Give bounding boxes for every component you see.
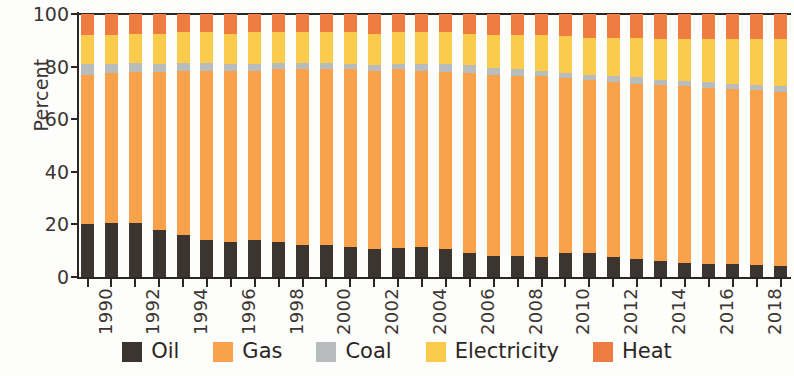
- bar-segment-coal-1993: [153, 64, 166, 72]
- bar-segment-electricity-2008: [511, 35, 524, 69]
- legend-item-coal[interactable]: Coal: [316, 341, 391, 362]
- legend-item-heat[interactable]: Heat: [593, 341, 672, 362]
- bar-segment-coal-1990: [81, 64, 94, 75]
- bar-2010: [559, 14, 572, 277]
- bar-segment-electricity-1992: [129, 34, 142, 63]
- bar-2008: [511, 14, 524, 277]
- bar-segment-oil-2004: [415, 247, 428, 277]
- bar-segment-coal-1994: [177, 63, 190, 71]
- x-tick-mark-1993: [158, 279, 160, 287]
- legend-item-oil[interactable]: Oil: [122, 341, 179, 362]
- bar-segment-heat-2019: [774, 14, 787, 39]
- x-tick-mark-2009: [541, 279, 543, 287]
- bar-segment-oil-2017: [726, 264, 739, 277]
- legend-item-electricity[interactable]: Electricity: [426, 341, 559, 362]
- x-tick-mark-2011: [588, 279, 590, 287]
- bar-2002: [368, 14, 381, 277]
- bar-2006: [463, 14, 476, 277]
- bar-segment-heat-2005: [439, 14, 452, 32]
- bar-2009: [535, 14, 548, 277]
- legend-label-oil: Oil: [151, 341, 179, 362]
- bar-segment-oil-2014: [654, 261, 667, 277]
- x-tick-label-2018: 2018: [764, 288, 785, 335]
- x-tick-mark-1990: [87, 279, 89, 287]
- bar-segment-electricity-2015: [678, 39, 691, 81]
- bar-segment-gas-1995: [200, 71, 213, 241]
- bar-segment-oil-2019: [774, 266, 787, 277]
- x-tick-label-2010: 2010: [572, 288, 593, 335]
- bar-segment-heat-1992: [129, 14, 142, 34]
- y-tick-mark-80: [71, 66, 78, 68]
- bar-segment-oil-2000: [320, 245, 333, 277]
- bar-1995: [200, 14, 213, 277]
- x-tick-mark-2010: [564, 279, 566, 287]
- bar-1992: [129, 14, 142, 277]
- legend-swatch-electricity-icon: [426, 342, 446, 362]
- bar-segment-heat-1993: [153, 14, 166, 34]
- x-tick-mark-2017: [732, 279, 734, 287]
- x-tick-mark-2006: [469, 279, 471, 287]
- bar-segment-oil-2008: [511, 256, 524, 277]
- bar-segment-electricity-2005: [439, 32, 452, 64]
- bar-2012: [607, 14, 620, 277]
- bar-segment-electricity-2006: [463, 34, 476, 66]
- bar-segment-heat-2002: [368, 14, 381, 34]
- bar-segment-gas-2004: [415, 71, 428, 247]
- bar-segment-electricity-1997: [248, 32, 261, 64]
- bar-segment-oil-1997: [248, 240, 261, 277]
- bar-segment-heat-2004: [415, 14, 428, 32]
- legend-label-gas: Gas: [242, 341, 282, 362]
- bar-segment-coal-1991: [105, 64, 118, 73]
- bar-segment-oil-1992: [129, 223, 142, 277]
- x-tick-mark-1997: [254, 279, 256, 287]
- bar-segment-electricity-2011: [583, 38, 596, 75]
- bar-1997: [248, 14, 261, 277]
- bar-segment-electricity-2017: [726, 39, 739, 84]
- bar-segment-gas-1991: [105, 73, 118, 223]
- bar-segment-heat-1998: [272, 14, 285, 32]
- bar-segment-coal-1992: [129, 63, 142, 72]
- legend-swatch-oil-icon: [122, 342, 142, 362]
- bar-1990: [81, 14, 94, 277]
- x-tick-mark-1992: [134, 279, 136, 287]
- bar-segment-electricity-2009: [535, 35, 548, 71]
- legend-swatch-coal-icon: [316, 342, 336, 362]
- bar-segment-oil-1994: [177, 235, 190, 277]
- bar-segment-oil-2010: [559, 253, 572, 277]
- bar-segment-oil-2018: [750, 265, 763, 277]
- x-tick-label-2006: 2006: [477, 288, 498, 335]
- bar-segment-oil-2005: [439, 249, 452, 277]
- bar-segment-coal-2006: [463, 65, 476, 73]
- x-tick-label-2016: 2016: [716, 288, 737, 335]
- bar-segment-heat-2013: [630, 14, 643, 38]
- bar-segment-gas-2015: [678, 86, 691, 262]
- bar-segment-electricity-2001: [344, 32, 357, 64]
- bar-segment-gas-2013: [630, 84, 643, 259]
- bar-segment-oil-1998: [272, 242, 285, 278]
- bar-segment-heat-2008: [511, 14, 524, 35]
- x-tick-mark-2003: [397, 279, 399, 287]
- x-tick-label-2000: 2000: [333, 288, 354, 335]
- x-tick-mark-2016: [708, 279, 710, 287]
- x-tick-mark-1999: [302, 279, 304, 287]
- bar-segment-electricity-1993: [153, 34, 166, 64]
- bar-segment-gas-1997: [248, 71, 261, 241]
- bar-segment-electricity-2007: [487, 35, 500, 68]
- bar-segment-oil-1995: [200, 240, 213, 277]
- legend-item-gas[interactable]: Gas: [213, 341, 282, 362]
- x-tick-mark-2013: [636, 279, 638, 287]
- bar-segment-oil-2003: [392, 248, 405, 277]
- bar-segment-electricity-2016: [702, 39, 715, 82]
- bar-segment-heat-2011: [583, 14, 596, 38]
- bar-segment-gas-1990: [81, 75, 94, 225]
- x-tick-mark-2019: [780, 279, 782, 287]
- bar-segment-heat-2009: [535, 14, 548, 35]
- bar-segment-electricity-2014: [654, 39, 667, 80]
- bar-1998: [272, 14, 285, 277]
- bar-segment-electricity-2013: [630, 38, 643, 77]
- bar-segment-oil-2011: [583, 253, 596, 277]
- y-axis-title: Percent: [30, 10, 52, 180]
- x-tick-mark-2018: [756, 279, 758, 287]
- x-tick-label-1994: 1994: [190, 288, 211, 335]
- bar-segment-gas-2005: [439, 72, 452, 250]
